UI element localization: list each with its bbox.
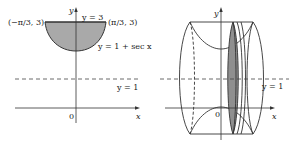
right-dashed-line-label: y = 1 — [261, 82, 283, 91]
left-end-ellipse — [180, 22, 191, 134]
right-y-axis-label: y — [213, 9, 219, 18]
right-panel — [180, 22, 264, 134]
left-dashed-line-label: y = 1 — [116, 83, 138, 92]
left-y-axis-label: y — [68, 6, 74, 15]
curve-label: y = 1 + sec x — [97, 42, 152, 51]
right-origin-label: 0 — [215, 110, 220, 119]
right-point-label: (π/3, 3) — [108, 18, 137, 27]
left-end-ellipse-back — [190, 22, 195, 134]
x-axis-arrow-icon — [135, 106, 140, 109]
left-point-label: (−π/3, 3) — [8, 18, 44, 27]
shaded-region — [45, 22, 106, 51]
right-end-ellipse — [253, 22, 264, 134]
diagram-canvas: y x 0 y = 3 y = 1 + sec x y = 1 (−π/3, 3… — [0, 0, 289, 144]
right-x-axis-arrow-icon — [270, 106, 275, 109]
right-labels: y x 0 y = 1 — [213, 9, 283, 121]
right-end-ellipse-inner — [247, 22, 253, 134]
left-x-axis-label: x — [136, 112, 141, 121]
y-axis-arrow-icon — [74, 7, 77, 12]
top-line-label: y = 3 — [81, 13, 103, 22]
right-x-axis-label: x — [272, 112, 277, 121]
right-y-axis-arrow-icon — [219, 7, 222, 12]
washer-slice — [228, 22, 239, 134]
left-origin-label: 0 — [69, 112, 74, 121]
